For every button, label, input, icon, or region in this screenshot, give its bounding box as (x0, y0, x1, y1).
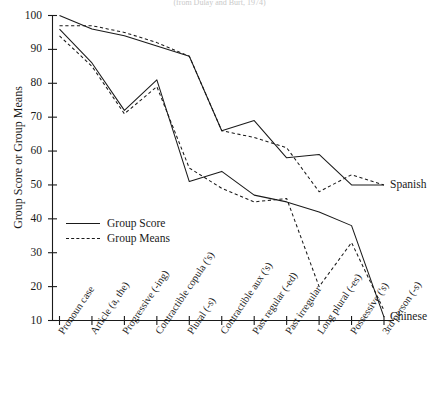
legend-label: Group Means (107, 231, 170, 246)
legend-swatch-solid-icon (66, 223, 100, 224)
plot-canvas (0, 0, 439, 411)
chart-legend: Group Score Group Means (66, 216, 170, 246)
legend-item-group-score: Group Score (66, 216, 170, 231)
series-line (60, 26, 385, 192)
legend-label: Group Score (107, 216, 165, 231)
series-line (60, 36, 385, 311)
axes (48, 16, 394, 326)
legend-item-group-means: Group Means (66, 231, 170, 246)
chart-figure: (from Dulay and Burt, 1974) Group Score … (0, 0, 439, 411)
legend-swatch-dashed-icon (66, 238, 100, 239)
series-line (60, 29, 385, 317)
series-end-label: Chinese (390, 310, 427, 322)
data-lines (60, 16, 385, 318)
series-line (60, 16, 385, 185)
series-end-label: Spanish (390, 178, 426, 190)
